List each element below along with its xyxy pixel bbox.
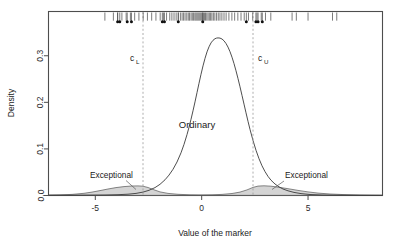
y-tick-label: 0.2: [36, 96, 46, 108]
chart-canvas: c L c U Ordinary Exceptional Exceptional…: [0, 0, 399, 242]
x-tick-label: 5: [306, 203, 311, 213]
cutoff-upper-main: c: [258, 53, 263, 63]
x-tick-label: 0: [199, 203, 204, 213]
rug-point-group: [116, 13, 264, 24]
cutoff-label-lower: c L: [130, 53, 140, 65]
rug-tick-group: [105, 13, 337, 21]
x-tick-label: -5: [92, 203, 100, 213]
ordinary-label: Ordinary: [179, 119, 216, 130]
rug-point: [118, 20, 121, 23]
exceptional-label-right: Exceptional: [285, 170, 328, 180]
rug-point: [245, 20, 248, 23]
rug-point: [130, 20, 133, 23]
y-axis-title: Density: [6, 88, 16, 117]
rug-point: [126, 20, 129, 23]
rug-point: [177, 20, 180, 23]
cutoff-label-upper: c U: [258, 53, 268, 65]
rug-point: [261, 20, 264, 23]
density-plot-figure: c L c U Ordinary Exceptional Exceptional…: [0, 0, 399, 242]
y-tick-label: 0.0: [36, 189, 46, 201]
y-tick-label: 0.1: [36, 143, 46, 155]
cutoff-lower-sub: L: [136, 58, 140, 65]
x-axis-title: Value of the marker: [178, 228, 252, 238]
cutoff-upper-sub: U: [264, 58, 268, 65]
exceptional-density-area: [49, 186, 382, 196]
y-axis-ticks: 0.00.10.20.3: [36, 50, 49, 202]
plot-frame: [49, 12, 383, 196]
x-axis-ticks: -505: [92, 196, 311, 213]
cutoff-lower-main: c: [130, 53, 135, 63]
rug-point: [257, 20, 260, 23]
exceptional-label-left: Exceptional: [90, 170, 133, 180]
rug-point: [163, 20, 166, 23]
y-tick-label: 0.3: [36, 50, 46, 62]
rug-point: [201, 20, 204, 23]
